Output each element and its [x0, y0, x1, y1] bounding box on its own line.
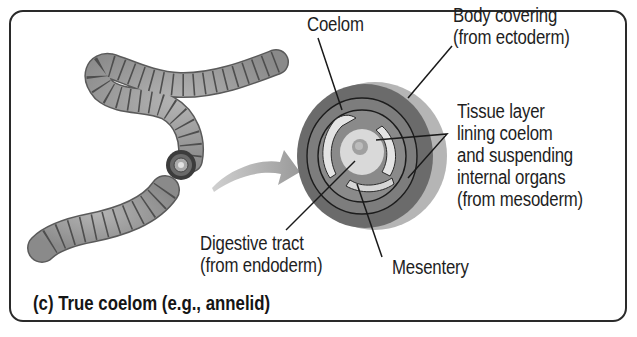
label-line: Body covering — [453, 4, 570, 26]
label-line: (from ectoderm) — [453, 26, 570, 48]
leader-body-covering — [408, 46, 452, 98]
label-tissue-layer: Tissue layer lining coelom and suspendin… — [457, 100, 583, 210]
worm-cut-end-icon — [166, 150, 196, 180]
figure-caption: (c) True coelom (e.g., annelid) — [33, 292, 270, 315]
label-line: internal organs — [457, 166, 583, 188]
earthworm-lower-icon — [42, 190, 165, 248]
label-line: and suspending — [457, 144, 583, 166]
label-mesentery: Mesentery — [392, 256, 469, 278]
label-line: (from endoderm) — [200, 254, 322, 276]
label-body-covering: Body covering (from ectoderm) — [453, 4, 570, 48]
label-line: Tissue layer — [457, 100, 583, 122]
cross-section-disc-icon — [297, 82, 447, 230]
label-line: lining coelom — [457, 122, 583, 144]
curved-arrow-icon — [212, 150, 300, 192]
label-line: Digestive tract — [200, 232, 322, 254]
label-coelom: Coelom — [307, 13, 364, 35]
label-digestive-tract: Digestive tract (from endoderm) — [200, 232, 322, 276]
label-line: (from mesoderm) — [457, 188, 583, 210]
earthworm-upper-icon — [97, 62, 276, 160]
